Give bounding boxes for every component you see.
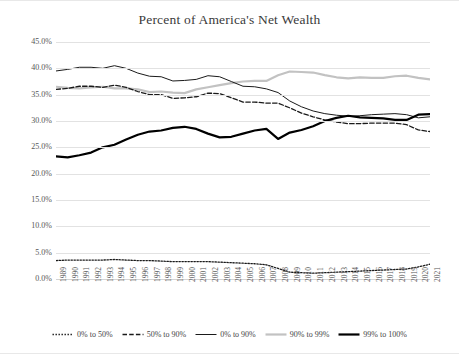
x-axis-tick-label: 1992 bbox=[94, 267, 103, 282]
plot-area bbox=[56, 42, 430, 279]
legend-item: 90% to 99% bbox=[265, 330, 330, 339]
series-layer bbox=[56, 42, 430, 279]
legend-item: 0% to 90% bbox=[195, 330, 256, 339]
y-axis-tick-label: 0.0% bbox=[4, 274, 52, 283]
x-axis-tick-label: 2012 bbox=[328, 267, 337, 282]
x-axis-tick-label: 2000 bbox=[188, 267, 197, 282]
legend-swatch bbox=[52, 331, 74, 338]
legend-label: 50% to 90% bbox=[147, 330, 187, 339]
x-axis-tick-label: 2014 bbox=[351, 267, 360, 282]
x-axis-tick-label: 2008 bbox=[281, 267, 290, 282]
y-axis-tick-label: 40.0% bbox=[4, 63, 52, 72]
y-axis-tick-label: 35.0% bbox=[4, 90, 52, 99]
x-axis-tick-label: 2004 bbox=[234, 267, 243, 282]
chart-legend: 0% to 50%50% to 90%0% to 90%90% to 99%99… bbox=[0, 330, 459, 339]
x-axis-tick-label: 2007 bbox=[269, 267, 278, 282]
x-axis-tick-label: 1993 bbox=[106, 267, 115, 282]
x-axis-tick-label: 2019 bbox=[410, 267, 419, 282]
x-axis-tick-label: 2011 bbox=[316, 267, 325, 282]
x-axis-tick-label: 2010 bbox=[304, 267, 313, 282]
chart-title: Percent of America's Net Wealth bbox=[0, 12, 459, 28]
y-axis-tick-label: 45.0% bbox=[4, 37, 52, 46]
gridline bbox=[56, 200, 430, 201]
x-axis-tick-label: 2018 bbox=[398, 267, 407, 282]
series-line bbox=[56, 66, 430, 118]
y-axis-tick-label: 15.0% bbox=[4, 195, 52, 204]
x-axis-tick-label: 2015 bbox=[363, 267, 372, 282]
x-axis-tick-label: 2013 bbox=[340, 267, 349, 282]
y-axis-tick-label: 10.0% bbox=[4, 221, 52, 230]
x-axis-tick-label: 2021 bbox=[433, 267, 442, 282]
gridline bbox=[56, 226, 430, 227]
legend-label: 99% to 100% bbox=[363, 330, 407, 339]
x-axis-tick-label: 2006 bbox=[258, 267, 267, 282]
series-line bbox=[56, 71, 430, 93]
gridline bbox=[56, 174, 430, 175]
legend-swatch bbox=[265, 331, 287, 338]
y-axis-tick-label: 5.0% bbox=[4, 248, 52, 257]
y-axis-tick-label: 25.0% bbox=[4, 142, 52, 151]
x-axis-tick-label: 2016 bbox=[375, 267, 384, 282]
gridline bbox=[56, 42, 430, 43]
legend-label: 90% to 99% bbox=[290, 330, 330, 339]
series-line bbox=[56, 85, 430, 131]
x-axis-tick-label: 2001 bbox=[199, 267, 208, 282]
legend-label: 0% to 50% bbox=[77, 330, 113, 339]
x-axis-tick-label: 1994 bbox=[117, 267, 126, 282]
x-axis-tick-label: 1989 bbox=[59, 267, 68, 282]
x-axis-tick-label: 2002 bbox=[211, 267, 220, 282]
x-axis-tick-label: 1998 bbox=[164, 267, 173, 282]
gridline bbox=[56, 95, 430, 96]
legend-item: 0% to 50% bbox=[52, 330, 113, 339]
frame-top-border bbox=[0, 0, 459, 1]
x-axis-tick-label: 1990 bbox=[71, 267, 80, 282]
gridline bbox=[56, 253, 430, 254]
legend-swatch bbox=[122, 331, 144, 338]
x-axis-tick-label: 2003 bbox=[223, 267, 232, 282]
x-axis-tick-label: 1991 bbox=[82, 267, 91, 282]
legend-item: 50% to 90% bbox=[122, 330, 187, 339]
x-axis-tick-label: 1997 bbox=[153, 267, 162, 282]
x-axis-tick-label: 2020 bbox=[421, 267, 430, 282]
x-axis-tick-label: 1999 bbox=[176, 267, 185, 282]
x-axis-tick-label: 2009 bbox=[293, 267, 302, 282]
gridline bbox=[56, 121, 430, 122]
x-axis-tick-label: 1996 bbox=[141, 267, 150, 282]
x-axis-tick-label: 2017 bbox=[386, 267, 395, 282]
x-axis-tick-label: 1995 bbox=[129, 267, 138, 282]
legend-swatch bbox=[195, 331, 217, 338]
gridline bbox=[56, 147, 430, 148]
legend-swatch bbox=[338, 331, 360, 338]
gridline bbox=[56, 68, 430, 69]
y-axis-tick-label: 30.0% bbox=[4, 116, 52, 125]
legend-label: 0% to 90% bbox=[220, 330, 256, 339]
y-axis-tick-label: 20.0% bbox=[4, 169, 52, 178]
chart-container: Percent of America's Net Wealth 0% to 50… bbox=[0, 0, 459, 354]
x-axis-tick-label: 2005 bbox=[246, 267, 255, 282]
legend-item: 99% to 100% bbox=[338, 330, 407, 339]
